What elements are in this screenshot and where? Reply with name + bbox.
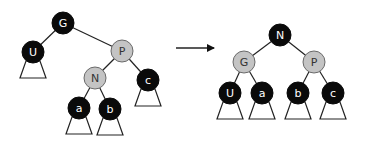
left-node-P: P <box>111 40 133 62</box>
right-subtree-U <box>217 102 243 119</box>
node-label: U <box>226 87 234 100</box>
node-label: G <box>240 56 249 69</box>
node-label: a <box>76 102 83 115</box>
left-node-b: b <box>99 98 121 120</box>
right-node-b: b <box>287 82 309 104</box>
right-subtree-c <box>320 102 346 119</box>
node-label: P <box>119 45 126 58</box>
left-node-G: G <box>52 12 74 34</box>
left-subtree-U <box>20 61 46 78</box>
left-node-N: N <box>84 67 106 89</box>
right-node-P: P <box>303 51 325 73</box>
node-label: b <box>107 103 114 116</box>
node-label: G <box>59 17 68 30</box>
diagram-canvas: GUPNcab NGPUabc <box>0 0 368 144</box>
node-label: a <box>259 87 266 100</box>
left-tree-before: GUPNcab <box>20 12 161 135</box>
left-node-a: a <box>68 97 90 119</box>
left-subtree-c <box>135 89 161 106</box>
node-label: c <box>330 87 336 100</box>
right-node-a: a <box>251 82 273 104</box>
right-node-N: N <box>269 24 291 46</box>
node-label: b <box>295 87 302 100</box>
node-label: U <box>29 46 37 59</box>
right-subtree-b <box>285 102 311 119</box>
right-node-G: G <box>233 51 255 73</box>
rotation-diagram: GUPNcab NGPUabc <box>0 0 368 144</box>
right-tree-after: NGPUabc <box>217 24 346 119</box>
node-label: N <box>91 72 99 85</box>
node-label: N <box>276 29 284 42</box>
left-subtree-a <box>66 117 92 134</box>
node-label: P <box>311 56 318 69</box>
right-node-c: c <box>322 82 344 104</box>
left-node-U: U <box>22 41 44 63</box>
left-node-c: c <box>137 69 159 91</box>
right-subtree-a <box>249 102 275 119</box>
node-label: c <box>145 74 151 87</box>
left-subtree-b <box>97 118 123 135</box>
right-node-U: U <box>219 82 241 104</box>
